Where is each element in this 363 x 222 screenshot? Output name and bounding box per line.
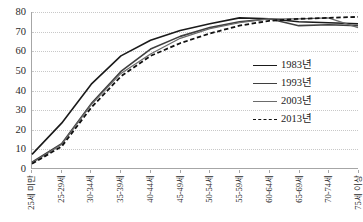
- legend-label: 1983년: [278, 60, 312, 71]
- x-axis-tick-mark: [90, 170, 91, 173]
- x-axis-tick-mark: [150, 170, 151, 173]
- legend-swatch-icon: [252, 78, 278, 88]
- x-axis-tick-label: 25세 미만: [27, 175, 36, 210]
- legend-item-2003년[interactable]: 2003년: [252, 92, 344, 110]
- legend-item-2013년[interactable]: 2013년: [252, 110, 344, 128]
- y-axis-tick-label: 0: [4, 164, 26, 175]
- x-axis-tick-mark: [120, 170, 121, 173]
- x-axis-tick-label: 30-34세: [86, 175, 95, 203]
- y-axis-tick-label: 50: [4, 66, 26, 77]
- legend-swatch-icon: [252, 96, 278, 106]
- x-axis-tick-label: 75세 이상: [354, 175, 363, 210]
- x-axis-tick-label: 65-69세: [294, 175, 303, 203]
- x-axis-tick-label: 25-29세: [56, 175, 65, 203]
- x-axis-tick-label: 35-39세: [116, 175, 125, 203]
- legend-item-1983년[interactable]: 1983년: [252, 56, 344, 74]
- y-axis-tick-label: 20: [4, 125, 26, 136]
- x-axis-tick-mark: [239, 170, 240, 173]
- x-axis-tick-label: 40-44세: [146, 175, 155, 203]
- legend-label: 2013년: [278, 114, 312, 125]
- chart-legend: 1983년1993년2003년2013년: [252, 56, 344, 128]
- x-axis-tick-label: 55-59세: [235, 175, 244, 203]
- x-axis-tick-mark: [61, 170, 62, 173]
- x-axis-tick-label: 45-49세: [175, 175, 184, 203]
- x-axis-tick-label: 60-64세: [265, 175, 274, 203]
- x-axis: 25세 미만25-29세30-34세35-39세40-44세45-49세50-5…: [31, 170, 358, 222]
- x-axis-tick-mark: [269, 170, 270, 173]
- x-axis-tick-mark: [328, 170, 329, 173]
- y-axis-tick-label: 30: [4, 105, 26, 116]
- x-axis-tick-label: 70-74세: [324, 175, 333, 203]
- x-axis-tick-label: 50-54세: [205, 175, 214, 203]
- x-axis-tick-mark: [358, 170, 359, 173]
- y-axis-tick-label: 70: [4, 26, 26, 37]
- legend-label: 2003년: [278, 96, 312, 107]
- legend-swatch-icon: [252, 114, 278, 124]
- y-axis-tick-label: 40: [4, 85, 26, 96]
- x-axis-tick-mark: [299, 170, 300, 173]
- y-axis-tick-label: 80: [4, 7, 26, 18]
- legend-item-1993년[interactable]: 1993년: [252, 74, 344, 92]
- y-axis: 01020304050607080: [0, 0, 26, 222]
- legend-label: 1993년: [278, 78, 312, 89]
- x-axis-tick-mark: [209, 170, 210, 173]
- y-axis-tick-label: 60: [4, 46, 26, 57]
- x-axis-tick-mark: [180, 170, 181, 173]
- legend-swatch-icon: [252, 60, 278, 70]
- y-axis-tick-label: 10: [4, 144, 26, 155]
- x-axis-tick-mark: [31, 170, 32, 173]
- line-chart: 01020304050607080 25세 미만25-29세30-34세35-3…: [0, 0, 363, 222]
